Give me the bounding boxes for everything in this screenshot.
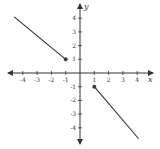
endpoint-dot	[64, 58, 67, 61]
right-segment	[94, 87, 138, 139]
x-tick-label: 1	[92, 76, 96, 83]
y-tick-label: 2	[72, 42, 76, 49]
x-tick-label: 3	[121, 76, 125, 83]
x-tick-label: -3	[34, 76, 40, 83]
x-tick-label: -1	[63, 76, 69, 83]
x-axis-label: x	[148, 75, 153, 84]
x-tick-label: 2	[107, 76, 111, 83]
y-tick-label: 3	[72, 28, 76, 35]
piecewise-graph: x y -4-3-2-112344321-1-2-3-4	[0, 0, 160, 149]
y-tick-label: 1	[72, 55, 76, 62]
x-tick-label: -2	[48, 76, 54, 83]
y-tick-label: 4	[72, 14, 76, 21]
plot-area	[14, 17, 138, 139]
y-tick-label: -2	[70, 96, 76, 103]
x-tick-label: 4	[135, 76, 139, 83]
left-segment	[14, 17, 65, 59]
y-tick-label: -4	[70, 124, 76, 131]
axes: x y	[8, 2, 153, 144]
endpoint-dot	[93, 85, 96, 88]
y-tick-label: -1	[70, 83, 76, 90]
y-tick-label: -3	[70, 110, 76, 117]
y-axis-label: y	[83, 2, 89, 11]
x-tick-label: -4	[20, 76, 26, 83]
